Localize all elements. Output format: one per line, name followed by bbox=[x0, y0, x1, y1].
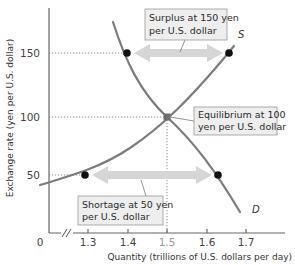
point-demand-50 bbox=[214, 171, 222, 179]
exchange-rate-chart: Surplus at 150 yen per U.S. dollar Equil… bbox=[0, 0, 295, 265]
surplus-text-2: per U.S. dollar bbox=[149, 25, 217, 36]
x-axis-title: Quantity (trillions of U.S. dollars per … bbox=[107, 252, 292, 262]
equilibrium-text-1: Equilibrium at 100 bbox=[198, 109, 286, 120]
equilibrium-text-2: yen per U.S. dollar bbox=[198, 121, 286, 132]
axis-break-icon bbox=[61, 229, 73, 237]
x-tick-1-5: 1.5 bbox=[159, 236, 176, 248]
x-tick-1-6: 1.6 bbox=[199, 236, 216, 248]
shortage-arrow bbox=[92, 166, 212, 184]
surplus-text-1: Surplus at 150 yen bbox=[149, 12, 239, 23]
shortage-text-2: per U.S. dollar bbox=[82, 211, 150, 222]
demand-label: D bbox=[252, 204, 260, 215]
equilibrium-marker bbox=[164, 114, 171, 121]
surplus-arrow bbox=[134, 44, 223, 62]
y-tick-150: 150 bbox=[20, 47, 40, 59]
x-tick-0: 0 bbox=[37, 236, 44, 248]
supply-label: S bbox=[238, 29, 245, 40]
shortage-text-1: Shortage at 50 yen bbox=[82, 199, 173, 210]
x-tick-1-7: 1.7 bbox=[238, 236, 255, 248]
point-demand-150 bbox=[123, 49, 131, 57]
y-axis-title: Exchange rate (yen per U.S. dollar) bbox=[5, 39, 15, 198]
chart-canvas: Surplus at 150 yen per U.S. dollar Equil… bbox=[0, 0, 295, 265]
x-tick-1-3: 1.3 bbox=[80, 236, 97, 248]
equilibrium-box: Equilibrium at 100 yen per U.S. dollar bbox=[194, 107, 286, 135]
surplus-box: Surplus at 150 yen per U.S. dollar bbox=[145, 9, 239, 40]
y-tick-50: 50 bbox=[27, 169, 40, 181]
point-supply-50 bbox=[81, 171, 89, 179]
y-tick-100: 100 bbox=[20, 111, 40, 123]
x-tick-1-4: 1.4 bbox=[120, 236, 137, 248]
shortage-box: Shortage at 50 yen per U.S. dollar bbox=[78, 196, 173, 225]
point-supply-150 bbox=[225, 49, 233, 57]
